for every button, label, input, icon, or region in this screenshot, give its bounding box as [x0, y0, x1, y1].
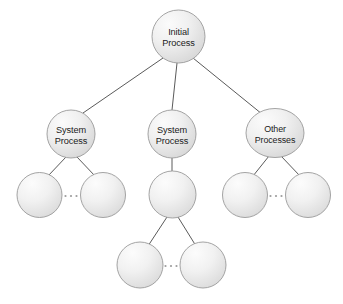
nodes-layer: InitialProcessSystemProcessSystemProcess… [17, 10, 331, 288]
node-shape-leaf-r1[interactable] [223, 173, 268, 218]
node-label-line2-sys-left: Process [55, 136, 88, 146]
tree-canvas: InitialProcessSystemProcessSystemProcess… [0, 0, 343, 304]
edge-root-to-other-right [193, 58, 262, 114]
node-shape-leaf-b1[interactable] [117, 242, 163, 288]
ellipsis-dot [70, 195, 72, 197]
edge-other-right-to-leaf-r2 [281, 156, 300, 176]
node-label-line2-sys-mid: Process [156, 136, 189, 146]
ellipsis-dot [175, 265, 177, 267]
node-shape-leaf-r2[interactable] [286, 173, 331, 218]
process-tree-diagram: InitialProcessSystemProcessSystemProcess… [0, 0, 343, 304]
node-leaf-l2[interactable] [81, 173, 126, 218]
node-label-line1-other-right: Other [264, 124, 286, 134]
node-shape-leaf-l2[interactable] [81, 173, 126, 218]
edge-sys-left-to-leaf-l2 [77, 157, 95, 176]
node-label-line1-root: Initial [168, 27, 189, 37]
node-shape-leaf-l1[interactable] [17, 173, 62, 218]
ellipsis-left-icon [64, 195, 77, 197]
ellipsis-dot [280, 195, 282, 197]
ellipsis-dot [75, 195, 77, 197]
ellipsis-dot [170, 265, 172, 267]
node-leaf-l1[interactable] [17, 173, 62, 218]
ellipsis-right-icon [269, 195, 282, 197]
edge-other-right-to-leaf-r1 [253, 156, 269, 176]
node-label-line2-other-right: Processes [255, 135, 296, 145]
ellipsis-dot [64, 195, 66, 197]
node-leaf-b2[interactable] [180, 242, 226, 288]
ellipsis-dot [164, 265, 166, 267]
ellipsis-dot [269, 195, 271, 197]
node-leaf-b1[interactable] [117, 242, 163, 288]
node-leaf-r2[interactable] [286, 173, 331, 218]
node-label-line1-sys-mid: System [157, 125, 187, 135]
edge-root-to-sys-mid [172, 63, 177, 110]
node-label-line2-root: Process [162, 38, 195, 48]
ellipsis-bottom-icon [164, 265, 177, 267]
node-sys-mid[interactable]: SystemProcess [148, 110, 196, 158]
node-leaf-m1[interactable] [149, 171, 196, 218]
edge-leaf-m1-to-leaf-b2 [178, 217, 196, 246]
node-shape-leaf-b2[interactable] [180, 242, 226, 288]
node-leaf-r1[interactable] [223, 173, 268, 218]
node-label-line1-sys-left: System [56, 125, 86, 135]
ellipsis-dot [275, 195, 277, 197]
node-other-right[interactable]: OtherProcesses [246, 109, 304, 158]
edge-sys-left-to-leaf-l1 [48, 157, 66, 176]
edge-root-to-sys-left [83, 58, 163, 113]
node-sys-left[interactable]: SystemProcess [47, 110, 95, 158]
node-root[interactable]: InitialProcess [152, 10, 205, 63]
edge-leaf-m1-to-leaf-b1 [148, 217, 167, 246]
node-shape-leaf-m1[interactable] [149, 171, 196, 218]
